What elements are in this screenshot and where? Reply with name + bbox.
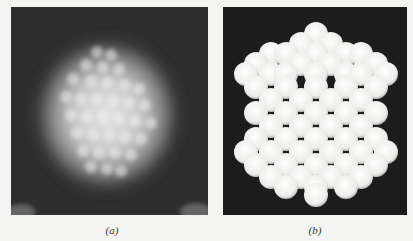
ball-model-panel-b <box>223 7 407 215</box>
cluster-micrograph-image <box>11 7 208 215</box>
panel-a-label: (a) <box>92 224 132 236</box>
sphere-cluster-model-image <box>223 7 407 215</box>
panel-b-label: (b) <box>295 224 335 236</box>
micrograph-panel-a <box>11 7 208 215</box>
